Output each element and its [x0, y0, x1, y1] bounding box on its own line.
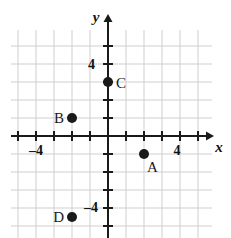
point-label-b: B [54, 110, 64, 126]
point-dot [139, 149, 149, 159]
point-label-c: C [116, 75, 126, 91]
y-tick-label-4: 4 [88, 57, 95, 72]
plotted-points: ABCD [53, 75, 158, 225]
coordinate-plane-svg: y x –4 4 4 –4 ABCD [0, 0, 231, 238]
point-label-a: A [147, 159, 158, 175]
plotted-point-d: D [53, 209, 77, 225]
y-axis-label: y [91, 9, 100, 25]
y-tick-label-neg4: –4 [83, 200, 98, 215]
plotted-point-c: C [103, 75, 126, 91]
point-label-d: D [53, 209, 64, 225]
plotted-point-a: A [139, 149, 158, 175]
coordinate-plane-figure: y x –4 4 4 –4 ABCD [0, 0, 231, 238]
x-tick-label-neg4: –4 [28, 143, 43, 158]
x-axis-label: x [214, 139, 223, 155]
grid-lines [11, 30, 212, 238]
point-dot [67, 113, 77, 123]
point-dot [103, 77, 113, 87]
y-axis-arrow-icon [104, 14, 113, 22]
x-axis-arrow-icon [206, 132, 214, 141]
axes [11, 14, 214, 238]
point-dot [67, 212, 77, 222]
x-tick-label-4: 4 [174, 143, 181, 158]
